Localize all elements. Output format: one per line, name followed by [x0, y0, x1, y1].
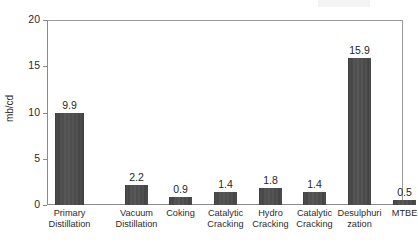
x-category-label-line2: Distillation: [47, 219, 93, 230]
y-tick-label: 10: [28, 106, 40, 118]
x-category-label-line1: Desulphuri: [338, 208, 382, 218]
x-category-label-line1: Catalytic: [208, 208, 243, 218]
bar: [259, 188, 282, 205]
x-category-label: CatalyticCracking: [292, 208, 338, 230]
x-category-label: Desulphurization: [337, 208, 383, 230]
bar-group: 0.9: [169, 20, 192, 205]
bar-value-label: 9.9: [62, 99, 77, 111]
bar-group: 1.8: [259, 20, 282, 205]
bar: [125, 185, 148, 205]
bar-chart: mb/cd 05101520 9.92.20.91.41.81.415.90.5…: [0, 0, 418, 248]
x-category-label-line1: Vacuum: [120, 208, 153, 218]
y-tick-label: 15: [28, 59, 40, 71]
x-category-label-line1: Coking: [166, 208, 195, 218]
bar-group: 1.4: [303, 20, 326, 205]
bar: [393, 200, 416, 205]
bar: [348, 58, 371, 205]
x-category-label-line1: Hydro: [258, 208, 283, 218]
bar-group: 0.5: [393, 20, 416, 205]
bar: [169, 197, 192, 205]
x-category-label-line1: Primary: [54, 208, 86, 218]
x-category-label: MTBE: [382, 208, 418, 219]
y-tick-label: 0: [34, 198, 40, 210]
x-category-label: VacuumDistillation: [114, 208, 160, 230]
x-category-label-line2: zation: [337, 219, 383, 230]
bar-value-label: 2.2: [129, 171, 144, 183]
x-category-label-line1: Catalytic: [297, 208, 332, 218]
bar-value-label: 1.4: [307, 178, 322, 190]
x-category-label-line2: Cracking: [203, 219, 249, 230]
bar-group: 2.2: [125, 20, 148, 205]
bar-group: 9.9: [55, 20, 84, 205]
y-tick-label: 5: [34, 152, 40, 164]
x-category-label-line2: Cracking: [248, 219, 294, 230]
bar: [303, 192, 326, 205]
x-category-label: Coking: [158, 208, 204, 219]
x-category-label-line2: Distillation: [114, 219, 160, 230]
bar: [214, 192, 237, 205]
scan-artifact: [318, 0, 370, 7]
y-tick-mark: [43, 205, 47, 206]
x-category-label-line2: Cracking: [292, 219, 338, 230]
bar-value-label: 1.8: [263, 174, 278, 186]
bar-group: 1.4: [214, 20, 237, 205]
x-category-label: HydroCracking: [248, 208, 294, 230]
x-category-label-line1: MTBE: [392, 208, 418, 218]
bar-value-label: 0.9: [173, 183, 188, 195]
bar: [55, 113, 84, 205]
bars-layer: 9.92.20.91.41.81.415.90.5: [47, 20, 403, 205]
x-category-label: PrimaryDistillation: [47, 208, 93, 230]
bar-group: 15.9: [348, 20, 371, 205]
x-axis-category-labels: PrimaryDistillationVacuumDistillationCok…: [47, 208, 403, 248]
x-category-label: CatalyticCracking: [203, 208, 249, 230]
bar-value-label: 1.4: [218, 178, 233, 190]
y-axis-title: mb/cd: [4, 87, 15, 131]
y-tick-label: 20: [28, 13, 40, 25]
bar-value-label: 15.9: [349, 44, 369, 56]
bar-value-label: 0.5: [397, 186, 412, 198]
